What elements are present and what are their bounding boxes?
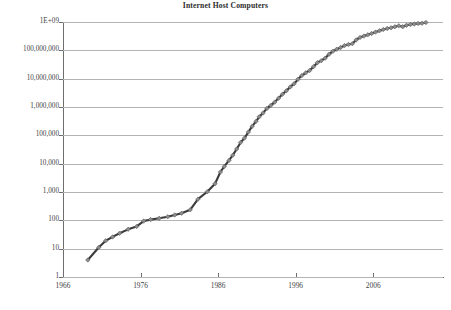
x-axis-tick-label: 1966 [33,282,93,290]
y-axis-tick-label: 1 [0,273,59,280]
data-point [157,216,162,221]
data-point [172,213,177,218]
data-point [416,21,421,26]
data-point [424,20,429,25]
data-point [412,22,417,27]
y-axis-tick-label: 1,000 [0,188,59,195]
gridline [63,277,443,278]
chart-container: Internet Host Computers 1101001,00010,00… [0,0,451,310]
y-axis-tick-label: 1E+09 [0,18,59,25]
series-line [88,23,426,260]
y-axis-tick-label: 10 [0,245,59,252]
x-axis-tick-label: 1986 [188,282,248,290]
data-point [397,24,402,29]
x-axis-tick-label: 2006 [343,282,403,290]
data-point [408,22,413,26]
plot-area [63,22,443,277]
data-series-internet-host-computers [63,22,443,277]
y-axis-tick-label: 100,000,000 [0,46,59,53]
y-axis-tick-label: 100 [0,216,59,223]
data-point [393,24,398,29]
y-axis-tick-label: 10,000 [0,160,59,167]
data-point [148,217,153,222]
data-point [385,26,390,31]
y-axis-tick-label: 10,000,000 [0,75,59,82]
y-axis-tick-label: 1,000,000 [0,103,59,110]
x-axis-tick-label: 1976 [111,282,171,290]
series-markers [86,20,429,262]
chart-title: Internet Host Computers [0,1,451,10]
x-axis-tick-label: 1996 [266,282,326,290]
data-point [165,214,170,219]
data-point [389,26,394,31]
data-point [420,21,425,26]
y-axis-tick-label: 100,000 [0,131,59,138]
